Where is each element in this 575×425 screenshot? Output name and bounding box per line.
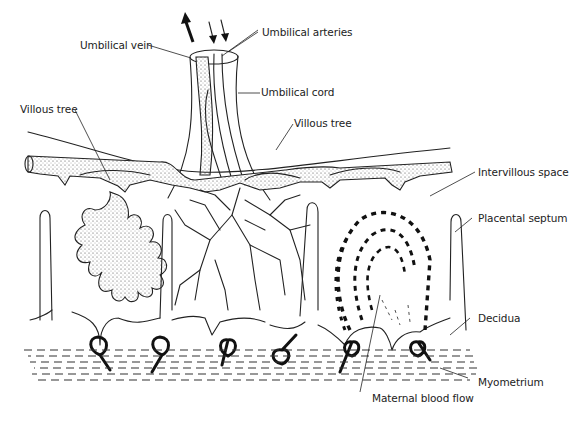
label-placental-septum: Placental septum (478, 212, 567, 224)
label-villous-tree-left: Villous tree (20, 103, 78, 115)
stem-villi (28, 156, 452, 192)
leader-lines (75, 30, 475, 392)
label-umbilical-arteries: Umbilical arteries (262, 26, 353, 38)
label-villous-tree-center: Villous tree (294, 117, 352, 129)
placenta-diagram: Umbilical arteries Umbilical vein Umbili… (0, 0, 575, 425)
label-umbilical-cord: Umbilical cord (261, 86, 334, 98)
label-myometrium: Myometrium (478, 376, 544, 388)
decidua (30, 310, 450, 350)
myometrium (24, 350, 478, 380)
label-umbilical-vein: Umbilical vein (80, 39, 153, 51)
label-decidua: Decidua (478, 312, 520, 324)
villous-tree-center (175, 188, 310, 310)
blood-flow-arrows-icon (181, 12, 229, 44)
villous-tree-left (75, 192, 167, 302)
label-intervillous-space: Intervillous space (478, 166, 569, 178)
label-maternal-blood-flow: Maternal blood flow (372, 392, 474, 404)
spiral-arteries (91, 335, 430, 372)
maternal-blood-flow (336, 213, 430, 330)
